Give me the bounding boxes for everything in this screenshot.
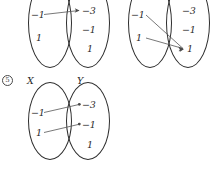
codomain-element: −3 (82, 6, 96, 16)
codomain-element: −1 (82, 25, 96, 35)
domain-element: 1 (36, 128, 42, 138)
domain-set-label: X (27, 76, 34, 86)
domain-element: −1 (31, 10, 45, 20)
domain-element: 1 (36, 33, 42, 43)
codomain-element: 1 (87, 140, 93, 150)
domain-element: 1 (136, 33, 142, 43)
diagram-canvas: −1 1 −3 −1 1 −1 1 −3 −1 1 5 X Y −1 1 −3 … (0, 0, 220, 169)
codomain-element: 1 (187, 44, 193, 54)
domain-element: −1 (31, 108, 45, 118)
codomain-element: −3 (82, 100, 96, 110)
codomain-element: −3 (182, 6, 196, 16)
codomain-element: 1 (87, 44, 93, 54)
codomain-element: −1 (82, 120, 96, 130)
codomain-element: −1 (182, 25, 196, 35)
domain-element: −1 (131, 10, 145, 20)
item-number-badge: 5 (2, 75, 13, 86)
